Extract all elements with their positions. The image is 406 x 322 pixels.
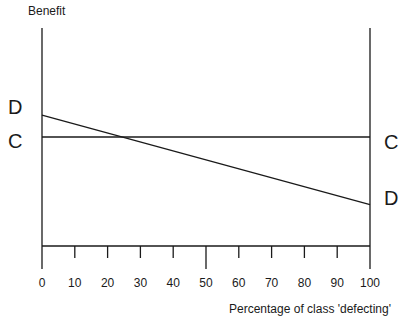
curve-label-d-left: D — [8, 96, 22, 118]
x-tick-label-30: 30 — [134, 276, 147, 290]
plot-area — [0, 0, 406, 322]
x-axis-title: Percentage of class 'defecting' — [229, 302, 391, 316]
curve-label-d-right: D — [384, 187, 398, 209]
curve-label-c-left: C — [8, 130, 22, 152]
x-tick-label-70: 70 — [265, 276, 278, 290]
x-tick-label-90: 90 — [331, 276, 344, 290]
x-tick-label-100: 100 — [360, 276, 380, 290]
x-tick-label-50: 50 — [199, 276, 212, 290]
x-tick-label-20: 20 — [101, 276, 114, 290]
x-tick-label-40: 40 — [167, 276, 180, 290]
benefit-vs-defection-chart: Benefit D C C D 0102030405060708090100 P… — [0, 0, 406, 322]
series-line-D — [42, 115, 370, 204]
x-tick-label-0: 0 — [39, 276, 46, 290]
x-tick-label-60: 60 — [232, 276, 245, 290]
x-tick-label-80: 80 — [298, 276, 311, 290]
x-tick-label-10: 10 — [68, 276, 81, 290]
curve-label-c-right: C — [384, 131, 398, 153]
